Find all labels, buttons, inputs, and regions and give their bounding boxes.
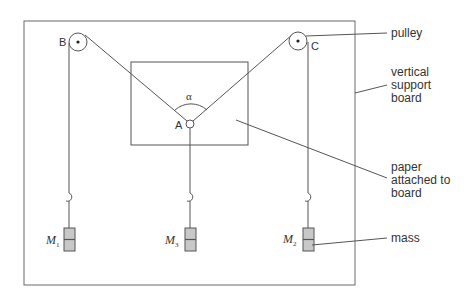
callout-label-paper: paper attached to board	[391, 160, 454, 200]
point-label-B: B	[59, 36, 66, 48]
hook-M3	[187, 193, 193, 228]
callout-label-mass: mass	[391, 231, 420, 245]
callout-line-pulley	[306, 33, 387, 36]
callout-line-paper	[236, 120, 387, 178]
callout-label-board: vertical support board	[391, 65, 434, 105]
callout-label-pulley: pulley	[391, 26, 422, 40]
callout-line-board	[355, 85, 387, 93]
pulley-C	[289, 32, 307, 50]
apparatus-diagram: α B C A M1 M3	[0, 0, 466, 302]
mass-M3	[185, 228, 196, 251]
point-label-C: C	[311, 40, 319, 52]
knot-A	[186, 120, 194, 128]
angle-label-alpha: α	[186, 90, 192, 102]
mass-label-M2: M2	[282, 232, 297, 248]
hook-M1	[66, 193, 72, 228]
mass-label-M3: M3	[164, 233, 179, 249]
string-A-to-C	[193, 34, 293, 121]
callout-line-mass	[312, 238, 387, 245]
pulley-B	[69, 33, 87, 51]
point-label-A: A	[175, 119, 183, 131]
mass-label-M1: M1	[45, 233, 60, 249]
mass-M2	[303, 228, 314, 251]
mass-M1	[64, 228, 75, 251]
hook-M2	[305, 193, 311, 228]
string-A-to-B	[85, 35, 187, 121]
angle-arc	[175, 104, 207, 110]
